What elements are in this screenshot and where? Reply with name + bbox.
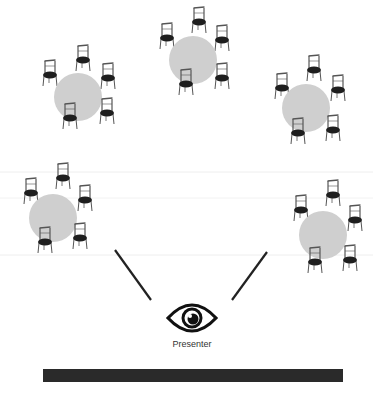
chair-icon (76, 45, 90, 71)
round-table (43, 45, 115, 129)
chair-icon (331, 75, 345, 101)
round-table (160, 7, 229, 95)
presenter-label: Presenter (152, 339, 232, 349)
table-top (282, 84, 330, 132)
chair-icon (56, 163, 70, 189)
chair-icon (348, 205, 362, 231)
round-table (294, 180, 362, 273)
chair-icon (326, 115, 340, 141)
round-table (275, 55, 345, 144)
eye-icon (168, 305, 216, 331)
chair-icon (24, 178, 38, 204)
chair-icon (343, 245, 357, 271)
chair-icon (101, 63, 115, 89)
sight-line (232, 252, 267, 300)
chair-icon (78, 185, 92, 211)
sight-line (115, 250, 151, 300)
table-top (299, 211, 347, 259)
chair-icon (294, 195, 308, 221)
chair-icon (307, 55, 321, 81)
chair-icon (192, 7, 206, 33)
table-top (29, 194, 77, 242)
chair-icon (43, 60, 57, 86)
tables-group (24, 7, 362, 273)
presentation-screen-bar (43, 369, 343, 382)
chair-icon (215, 63, 229, 89)
table-top (54, 73, 102, 121)
round-table (24, 163, 92, 253)
table-top (169, 36, 217, 84)
chair-icon (160, 23, 174, 49)
chair-icon (215, 25, 229, 51)
chair-icon (326, 180, 340, 206)
sight-lines (115, 250, 267, 300)
chair-icon (100, 98, 114, 124)
chair-icon (73, 223, 87, 249)
